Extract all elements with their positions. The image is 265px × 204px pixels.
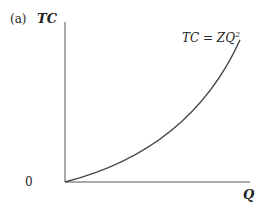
tc-curve — [65, 40, 240, 182]
chart-plot — [0, 0, 265, 204]
